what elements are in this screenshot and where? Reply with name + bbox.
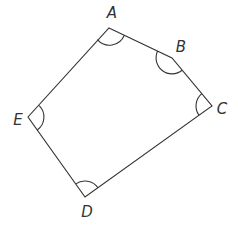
angle-mark-e: [37, 106, 44, 130]
pentagon-diagram: A B C D E: [0, 0, 238, 231]
vertex-label-c: C: [217, 100, 228, 118]
vertex-label-a: A: [106, 4, 117, 22]
vertex-label-e: E: [13, 111, 23, 129]
vertex-label-d: D: [81, 203, 93, 221]
angle-mark-d: [76, 181, 98, 188]
diagram-svg: A B C D E: [0, 0, 238, 231]
angle-mark-c: [196, 94, 202, 116]
vertex-label-b: B: [176, 38, 186, 56]
